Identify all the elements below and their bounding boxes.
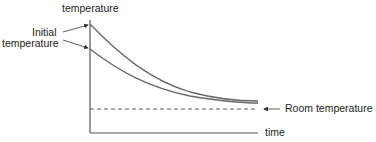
y-axis-label: temperature (62, 3, 119, 14)
x-axis-label: time (265, 127, 285, 138)
initial-arrow-upper (63, 25, 88, 32)
initial-label-line1: Initial (32, 27, 57, 38)
cooling-curves-diagram (0, 0, 376, 142)
initial-label-line2: temperature (2, 38, 59, 49)
lower-cooling-curve (90, 49, 258, 103)
upper-cooling-curve (90, 24, 258, 101)
initial-arrow-lower (63, 40, 88, 48)
room-temperature-label: Room temperature (285, 103, 373, 114)
